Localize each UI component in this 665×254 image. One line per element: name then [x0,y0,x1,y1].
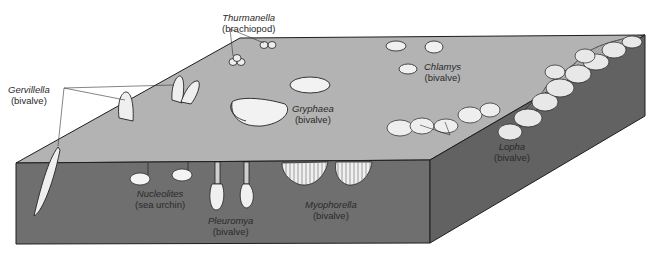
label-gryphaea: Gryphaea (bivalve) [292,103,334,125]
label-genus: Gryphaea [292,103,334,114]
label-myophorella: Myophorella (bivalve) [305,199,357,221]
label-genus: Lopha [494,141,530,152]
label-gervillella: Gervillella (bivalve) [8,84,50,106]
label-group: (bivalve) [305,210,357,221]
label-thurmanella: Thurmanella (brachiopod) [222,12,275,34]
label-genus: Pleuromya [208,215,253,226]
label-group: (bivalve) [208,226,253,237]
label-group: (bivalve) [424,72,461,83]
label-genus: Chlamys [424,61,461,72]
label-genus: Nucleolites [135,188,185,199]
label-group: (bivalve) [292,114,334,125]
label-pleuromya: Pleuromya (bivalve) [208,215,253,237]
label-group: (bivalve) [8,95,50,106]
label-genus: Thurmanella [222,12,275,23]
label-chlamys: Chlamys (bivalve) [424,61,461,83]
label-group: (brachiopod) [222,23,275,34]
label-genus: Gervillella [8,84,50,95]
label-lopha: Lopha (bivalve) [494,141,530,163]
label-nucleolites: Nucleolites (sea urchin) [135,188,185,210]
label-group: (bivalve) [494,152,530,163]
label-genus: Myophorella [305,199,357,210]
label-group: (sea urchin) [135,199,185,210]
